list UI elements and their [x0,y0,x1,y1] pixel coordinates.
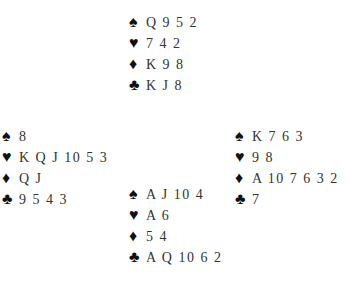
heart-icon: ♥ [129,32,146,53]
heart-icon: ♥ [129,204,146,225]
east-hearts: ♥9 8 [235,146,339,167]
east-spades: ♠K 7 6 3 [235,125,339,146]
east-clubs: ♣7 [235,188,339,209]
south-clubs: ♣A Q 10 6 2 [129,246,222,267]
east-diamonds: ♦A 10 7 6 3 2 [235,167,339,188]
diamond-icon: ♦ [129,225,146,246]
south-spades-cards: A J 10 4 [146,187,204,202]
east-hearts-cards: 9 8 [252,150,274,165]
diamond-icon: ♦ [129,53,146,74]
south-spades: ♠A J 10 4 [129,183,222,204]
east-diamonds-cards: A 10 7 6 3 2 [252,171,339,186]
west-clubs: ♣9 5 4 3 [2,188,108,209]
west-spades: ♠8 [2,125,108,146]
diamond-icon: ♦ [2,167,19,188]
north-hearts: ♥7 4 2 [129,32,198,53]
north-diamonds: ♦K 9 8 [129,53,198,74]
club-icon: ♣ [129,246,146,267]
club-icon: ♣ [2,188,19,209]
heart-icon: ♥ [2,146,19,167]
south-hand: ♠A J 10 4 ♥A 6 ♦5 4 ♣A Q 10 6 2 [129,183,222,267]
club-icon: ♣ [129,74,146,95]
north-spades-cards: Q 9 5 2 [146,15,198,30]
west-hearts: ♥K Q J 10 5 3 [2,146,108,167]
west-spades-cards: 8 [19,129,28,144]
south-diamonds-cards: 5 4 [146,229,168,244]
west-clubs-cards: 9 5 4 3 [19,192,68,207]
north-clubs-cards: K J 8 [146,78,183,93]
east-clubs-cards: 7 [252,192,261,207]
south-diamonds: ♦5 4 [129,225,222,246]
north-diamonds-cards: K 9 8 [146,57,185,72]
club-icon: ♣ [235,188,252,209]
south-hearts: ♥A 6 [129,204,222,225]
heart-icon: ♥ [235,146,252,167]
north-clubs: ♣K J 8 [129,74,198,95]
west-hand: ♠8 ♥K Q J 10 5 3 ♦Q J ♣9 5 4 3 [2,125,108,209]
west-diamonds-cards: Q J [19,171,43,186]
south-clubs-cards: A Q 10 6 2 [146,250,222,265]
spade-icon: ♠ [129,11,146,32]
spade-icon: ♠ [129,183,146,204]
east-hand: ♠K 7 6 3 ♥9 8 ♦A 10 7 6 3 2 ♣7 [235,125,339,209]
north-spades: ♠Q 9 5 2 [129,11,198,32]
south-hearts-cards: A 6 [146,208,170,223]
diamond-icon: ♦ [235,167,252,188]
north-hearts-cards: 7 4 2 [146,36,182,51]
north-hand: ♠Q 9 5 2 ♥7 4 2 ♦K 9 8 ♣K J 8 [129,11,198,95]
west-hearts-cards: K Q J 10 5 3 [19,150,108,165]
spade-icon: ♠ [2,125,19,146]
west-diamonds: ♦Q J [2,167,108,188]
east-spades-cards: K 7 6 3 [252,129,304,144]
spade-icon: ♠ [235,125,252,146]
